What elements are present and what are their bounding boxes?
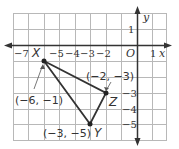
x-tick-label: −7 [14, 48, 29, 59]
y-tick-label: −5 [122, 119, 137, 130]
x-tick-label: −4 [65, 48, 80, 59]
origin-label: O [126, 47, 135, 60]
x-tick-label: −5 [49, 48, 64, 59]
x-axis-label: x [159, 47, 166, 60]
vertex-x-label: X [31, 46, 41, 60]
vertex-z-point [104, 91, 109, 96]
vertex-y-label: Y [94, 126, 103, 140]
coord-label-x: (−6, −1) [15, 94, 63, 107]
x-tick-label: 1 [150, 48, 156, 59]
y-tick-label: −4 [122, 104, 137, 115]
y-tick-label: −3 [122, 88, 137, 99]
y-axis-label: y [142, 11, 150, 24]
coord-label-z: (−2, −3) [86, 70, 134, 83]
y-axis-down-arrow-icon [135, 138, 141, 146]
y-tick-label: 1 [128, 24, 134, 35]
x-axis-left-arrow-icon [4, 43, 12, 49]
vertex-x-point [42, 59, 47, 64]
x-tick-label: −2 [96, 48, 111, 59]
coordinate-plane: −7 −5 −4 −3 −2 1 O x y 1 −3 −4 −5 X Z Y … [0, 0, 179, 149]
graph-canvas: −7 −5 −4 −3 −2 1 O x y 1 −3 −4 −5 X Z Y … [0, 0, 179, 149]
vertex-z-label: Z [108, 95, 118, 109]
y-axis-up-arrow-icon [135, 6, 141, 14]
vertex-y-point [88, 122, 93, 127]
x-tick-label: −3 [80, 48, 95, 59]
coord-label-y: (−3, −5) [43, 127, 91, 140]
